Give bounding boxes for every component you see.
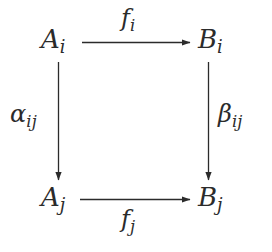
node-label-a-j: Aj [41, 184, 65, 210]
node-label-a-i: Ai [41, 26, 66, 52]
edge-subscript-f-j: j [130, 217, 135, 236]
node-label-b-i: Bi [198, 26, 223, 52]
edge-base-beta-ij: β [218, 100, 232, 128]
node-base-a-i: A [41, 24, 60, 54]
edge-subscript-alpha-ij: ij [26, 112, 37, 131]
node-base-b-i: B [198, 24, 217, 54]
edge-base-f-j: f [121, 205, 130, 233]
edge-label-beta-ij: βij [218, 102, 243, 126]
node-label-b-j: Bj [198, 184, 223, 210]
node-base-a-j: A [41, 182, 60, 212]
edge-label-f-j: fj [121, 207, 135, 231]
edge-label-alpha-ij: αij [10, 102, 37, 126]
edge-label-f-i: fi [121, 6, 135, 30]
edge-subscript-f-i: i [130, 16, 135, 35]
node-subscript-b-i: i [217, 37, 223, 57]
edge-base-f-i: f [121, 4, 130, 32]
edge-subscript-beta-ij: ij [232, 112, 243, 131]
commutative-diagram: Ai Bi Aj Bj fi fj αij βij [0, 0, 272, 252]
edge-base-alpha-ij: α [10, 100, 26, 128]
node-base-b-j: B [198, 182, 217, 212]
node-subscript-b-j: j [217, 195, 223, 215]
node-subscript-a-j: j [60, 195, 66, 215]
node-subscript-a-i: i [60, 37, 66, 57]
